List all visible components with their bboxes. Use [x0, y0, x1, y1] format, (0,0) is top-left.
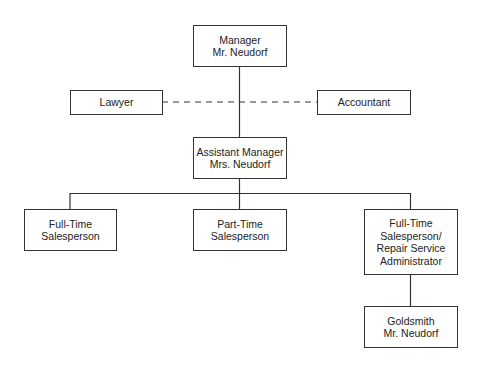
node-text: Salesperson/ — [380, 230, 441, 243]
node-text: Full-Time — [49, 218, 92, 231]
node-part-time-salesperson: Part-Time Salesperson — [193, 209, 287, 251]
node-accountant: Accountant — [317, 90, 411, 115]
node-full-time-repair-admin: Full-Time Salesperson/ Repair Service Ad… — [364, 209, 458, 275]
node-text: Salesperson — [41, 230, 99, 243]
node-text: Manager — [219, 34, 260, 47]
node-text: Goldsmith — [387, 315, 434, 328]
node-text: Mrs. Neudorf — [210, 158, 271, 171]
node-text: Lawyer — [100, 96, 134, 109]
node-text: Mr. Neudorf — [384, 327, 439, 340]
node-full-time-salesperson: Full-Time Salesperson — [24, 209, 117, 251]
node-text: Accountant — [338, 96, 391, 109]
node-text: Salesperson — [211, 230, 269, 243]
node-text: Administrator — [380, 255, 442, 268]
node-goldsmith: Goldsmith Mr. Neudorf — [364, 306, 458, 348]
node-assistant-manager: Assistant Manager Mrs. Neudorf — [193, 137, 287, 179]
node-text: Part-Time — [217, 218, 263, 231]
node-text: Repair Service — [377, 242, 446, 255]
node-text: Assistant Manager — [197, 146, 284, 159]
node-text: Mr. Neudorf — [213, 46, 268, 59]
node-lawyer: Lawyer — [70, 90, 163, 115]
node-text: Full-Time — [389, 217, 432, 230]
node-manager: Manager Mr. Neudorf — [193, 25, 287, 67]
